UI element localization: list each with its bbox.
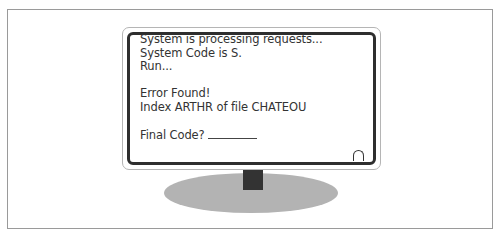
final-code-line: Final Code? (140, 128, 323, 143)
blank-line (140, 115, 323, 129)
screen-line: System is processing requests... (140, 33, 323, 47)
screen-line: Error Found! (140, 87, 323, 101)
final-code-label: Final Code? (140, 128, 205, 142)
final-code-blank (208, 128, 257, 139)
blank-line (140, 74, 323, 88)
screen-line: Run... (140, 60, 323, 74)
power-button-icon (353, 150, 364, 161)
screen-line: System Code is S. (140, 47, 323, 61)
screen-text: System is processing requests... System … (140, 33, 323, 143)
screen-line: Index ARTHR of file CHATEOU (140, 101, 323, 115)
